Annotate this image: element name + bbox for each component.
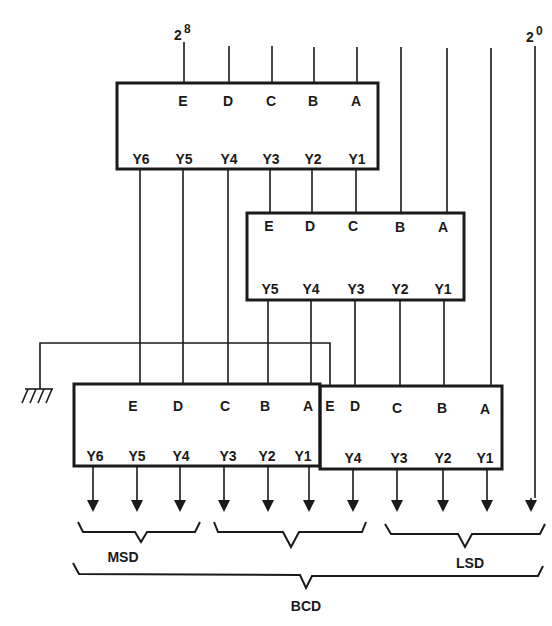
bottom-right-converter-block: E D C B A Y4 Y3 Y2 Y1 — [320, 386, 502, 469]
svg-text:E: E — [128, 398, 137, 414]
svg-text:Y6: Y6 — [132, 151, 149, 167]
svg-text:0: 0 — [536, 24, 543, 38]
svg-text:Y1: Y1 — [348, 151, 365, 167]
bcd-label: BCD — [291, 598, 321, 614]
svg-text:Y1: Y1 — [294, 448, 311, 464]
svg-text:2: 2 — [526, 29, 534, 45]
svg-text:Y3: Y3 — [347, 281, 364, 297]
lsd-brace — [385, 524, 545, 547]
svg-text:E: E — [178, 93, 187, 109]
svg-text:A: A — [351, 93, 361, 109]
top-input-wires — [184, 42, 357, 83]
svg-text:Y4: Y4 — [220, 151, 237, 167]
middle-converter-block: E D C B A Y5 Y4 Y3 Y2 Y1 — [247, 213, 464, 300]
ground-connection — [22, 343, 330, 403]
svg-text:Y2: Y2 — [258, 448, 275, 464]
svg-text:D: D — [350, 398, 360, 414]
svg-text:C: C — [392, 400, 402, 416]
svg-text:C: C — [266, 93, 276, 109]
svg-text:E: E — [325, 398, 334, 414]
svg-text:B: B — [395, 219, 405, 235]
svg-text:B: B — [308, 93, 318, 109]
svg-text:Y5: Y5 — [175, 151, 192, 167]
svg-text:C: C — [220, 398, 230, 414]
svg-text:D: D — [305, 218, 315, 234]
svg-text:D: D — [173, 398, 183, 414]
svg-text:Y2: Y2 — [391, 281, 408, 297]
svg-text:8: 8 — [184, 22, 191, 36]
svg-text:A: A — [438, 219, 448, 235]
svg-text:B: B — [437, 400, 447, 416]
pass-through-wires — [401, 46, 535, 498]
svg-text:Y1: Y1 — [434, 281, 451, 297]
svg-text:A: A — [480, 401, 490, 417]
svg-text:B: B — [260, 398, 270, 414]
middle-digit-brace — [214, 522, 366, 547]
lsb-input-label: 2 0 — [526, 24, 543, 45]
svg-text:Y5: Y5 — [128, 448, 145, 464]
svg-text:Y3: Y3 — [390, 450, 407, 466]
svg-text:Y3: Y3 — [219, 448, 236, 464]
msd-label: MSD — [107, 549, 138, 565]
ground-icon — [22, 389, 52, 403]
svg-text:Y6: Y6 — [86, 448, 103, 464]
svg-text:Y2: Y2 — [304, 151, 321, 167]
msb-input-label: 2 8 — [174, 22, 191, 43]
bcd-converter-diagram: 2 8 2 0 E D C B A Y6 Y5 Y4 Y3 Y2 Y1 — [0, 0, 552, 626]
svg-text:Y4: Y4 — [302, 281, 319, 297]
svg-text:Y1: Y1 — [476, 450, 493, 466]
svg-text:Y4: Y4 — [172, 448, 189, 464]
svg-text:Y4: Y4 — [344, 450, 361, 466]
bottom-left-converter-block: E D C B A Y6 Y5 Y4 Y3 Y2 Y1 — [74, 384, 320, 466]
svg-text:Y2: Y2 — [434, 450, 451, 466]
svg-text:Y5: Y5 — [261, 281, 278, 297]
bcd-output-arrows — [87, 466, 537, 512]
msd-brace — [78, 522, 200, 542]
svg-text:A: A — [303, 398, 313, 414]
lsd-label: LSD — [456, 555, 484, 571]
svg-text:E: E — [264, 218, 273, 234]
top-converter-block: E D C B A Y6 Y5 Y4 Y3 Y2 Y1 — [117, 83, 378, 169]
svg-text:C: C — [348, 218, 358, 234]
svg-text:D: D — [223, 93, 233, 109]
svg-text:2: 2 — [174, 27, 182, 43]
svg-text:Y3: Y3 — [262, 151, 279, 167]
